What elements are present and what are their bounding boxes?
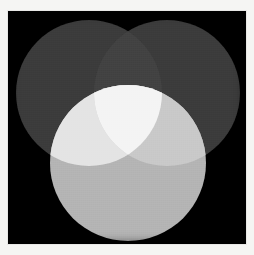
venn-figure bbox=[0, 0, 254, 255]
venn-canvas-frame bbox=[8, 11, 246, 244]
venn-diagram-svg bbox=[8, 11, 246, 244]
